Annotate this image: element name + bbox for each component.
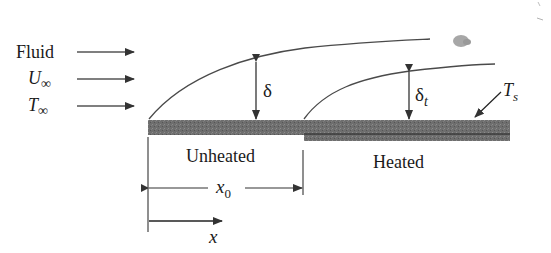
x0-label: x0 bbox=[215, 176, 231, 201]
fluid-label: Fluid bbox=[16, 42, 54, 62]
thermal-boundary-layer-curve bbox=[304, 64, 495, 119]
heated-plate-section bbox=[304, 120, 510, 141]
x-label: x bbox=[208, 226, 218, 247]
surface-temp-label: Ts bbox=[503, 80, 518, 104]
surface-temp-arrow bbox=[475, 92, 501, 117]
plate bbox=[148, 120, 510, 141]
u-inf-label: U∞ bbox=[28, 68, 51, 91]
t-inf-label: T∞ bbox=[28, 95, 48, 118]
velocity-boundary-layer-curve bbox=[149, 39, 430, 119]
unheated-label: Unheated bbox=[186, 146, 255, 166]
delta-label: δ bbox=[263, 80, 272, 101]
inlet-group: Fluid U∞ T∞ bbox=[16, 42, 134, 118]
boundary-layer-diagram: Fluid U∞ T∞ δ δt Ts Unheated Heated x0 x bbox=[0, 0, 551, 253]
scan-artifact bbox=[453, 2, 543, 47]
heated-label: Heated bbox=[373, 152, 424, 172]
delta-t-label: δt bbox=[415, 84, 429, 109]
unheated-plate-section bbox=[148, 120, 306, 135]
